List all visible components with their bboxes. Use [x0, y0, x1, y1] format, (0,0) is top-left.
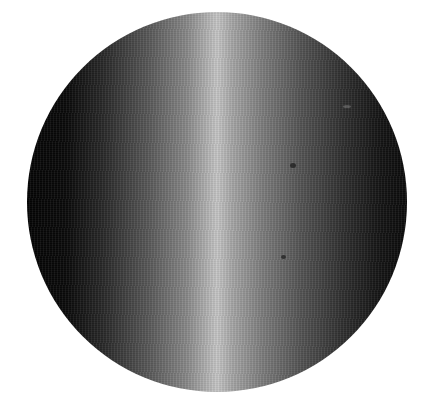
- surface-texture: [27, 12, 407, 392]
- surface-blemish: [281, 255, 286, 259]
- surface-blemish: [343, 105, 351, 108]
- surface-blemish: [290, 163, 296, 168]
- metallic-disc: [27, 12, 407, 392]
